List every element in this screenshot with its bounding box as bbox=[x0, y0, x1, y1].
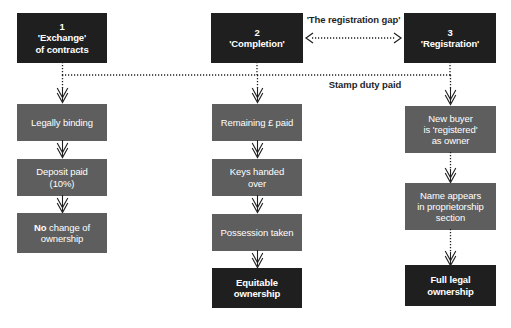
step-label: Deposit paid bbox=[36, 166, 88, 177]
step-box-new-buyer-registered: New buyer is 'registered' as owner bbox=[405, 106, 496, 153]
stage-1-line2: of contracts bbox=[35, 44, 88, 55]
outcome-box-full-legal-ownership: Full legal ownership bbox=[405, 265, 496, 306]
stage-3-line1: 'Registration' bbox=[421, 38, 480, 49]
step-sublabel: in proprietorship bbox=[417, 201, 483, 212]
arrow-rail-to-legally-binding bbox=[54, 75, 71, 104]
arrow-keys-to-possession bbox=[249, 195, 266, 214]
arrow-possession-to-equitable bbox=[249, 250, 266, 269]
registration-gap-label: 'The registration gap' bbox=[303, 14, 404, 25]
registration-gap-double-arrow bbox=[303, 30, 404, 46]
stage-3-number: 3 bbox=[447, 27, 452, 38]
step-label: Remaining £ paid bbox=[221, 117, 293, 128]
step-sublabel: (10%) bbox=[50, 178, 75, 189]
outcome-rest: change of bbox=[47, 222, 90, 233]
step-label: Legally binding bbox=[31, 117, 93, 128]
arrow-deposit-to-no-change bbox=[54, 195, 71, 214]
step-box-deposit-paid: Deposit paid (10%) bbox=[17, 159, 107, 196]
outcome-line1: Equitable bbox=[236, 277, 278, 288]
stage-1-line1: 'Exchange' bbox=[38, 32, 86, 43]
step-box-remaining-paid: Remaining £ paid bbox=[212, 104, 302, 141]
outcome-line2: ownership bbox=[41, 233, 83, 244]
stamp-duty-paid-label: Stamp duty paid bbox=[300, 79, 430, 90]
stage-2-line1: 'Completion' bbox=[229, 38, 285, 49]
step-box-keys-handed-over: Keys handed over bbox=[212, 159, 302, 196]
stage-box-exchange: 1 'Exchange' of contracts bbox=[17, 13, 107, 63]
step-sublabel: over bbox=[248, 178, 266, 189]
arrow-rail-to-new-buyer bbox=[442, 75, 459, 106]
step-box-legally-binding: Legally binding bbox=[17, 104, 107, 141]
arrow-name-appears-to-full-legal bbox=[442, 229, 459, 267]
step-box-possession-taken: Possession taken bbox=[212, 214, 302, 251]
arrow-remaining-to-keys bbox=[249, 140, 266, 159]
arrow-new-buyer-to-name-appears bbox=[442, 152, 459, 184]
conveyancing-flow-diagram: 1 'Exchange' of contracts 2 'Completion'… bbox=[0, 0, 511, 328]
step-sublabel-2: section bbox=[436, 212, 465, 223]
stage-2-number: 2 bbox=[254, 27, 259, 38]
outcome-bold-lead: No bbox=[34, 222, 46, 233]
outcome-line2: ownership bbox=[234, 288, 281, 299]
step-label: New buyer bbox=[428, 113, 473, 124]
step-label: Name appears bbox=[420, 190, 481, 201]
step-label: Possession taken bbox=[221, 227, 294, 238]
outcome-box-equitable-ownership: Equitable ownership bbox=[212, 268, 302, 308]
stage-1-number: 1 bbox=[59, 21, 64, 32]
arrow-legally-binding-to-deposit bbox=[54, 140, 71, 159]
step-label: Keys handed bbox=[230, 166, 284, 177]
stage-box-registration: 3 'Registration' bbox=[404, 13, 496, 63]
stamp-duty-dotted-rail bbox=[62, 62, 452, 78]
arrow-rail-to-remaining-paid bbox=[249, 75, 266, 104]
step-sublabel: is 'registered' bbox=[424, 124, 478, 135]
step-box-name-appears-proprietorship: Name appears in proprietorship section bbox=[405, 183, 496, 230]
step-sublabel-2: as owner bbox=[432, 135, 470, 146]
stage-box-completion: 2 'Completion' bbox=[211, 13, 303, 63]
outcome-box-no-change-of-ownership: No change of ownership bbox=[17, 213, 107, 253]
outcome-line2: ownership bbox=[427, 286, 474, 297]
outcome-line1: Full legal bbox=[430, 274, 470, 285]
